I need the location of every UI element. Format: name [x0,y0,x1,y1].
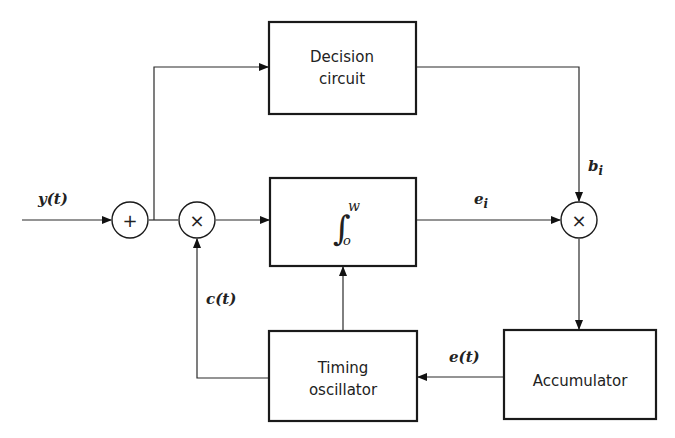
integral-lower-limit: o [343,233,351,248]
multiplier-node-2: × [561,202,597,238]
multiplier-node-1: × [179,202,215,238]
times-icon: × [189,210,204,231]
signal-b-i: bi [588,157,604,178]
adder-node: + [112,202,148,238]
oscillator-label-1: Timing [317,359,369,377]
decision-circuit-block: Decision circuit [269,22,416,114]
oscillator-label-2: oscillator [309,381,378,399]
signal-c-t: c(t) [206,290,236,308]
timing-oscillator-block: Timing oscillator [269,331,417,421]
decision-label-1: Decision [310,48,374,66]
times-icon: × [571,210,586,231]
signal-e-t: e(t) [449,348,480,366]
ct-wire [197,239,269,378]
decision-to-mult-wire [417,67,579,201]
signal-e-i: ei [474,190,489,211]
integral-upper-limit: w [348,198,360,214]
branch-to-decision-wire [154,67,268,220]
block-diagram: Decision circuit ∫ w o Timing oscillator… [0,0,675,438]
integrator-block: ∫ w o [270,178,416,266]
accumulator-label: Accumulator [533,372,629,390]
plus-icon: + [122,210,137,231]
decision-label-2: circuit [319,70,365,88]
signal-y-t: y(t) [37,190,68,208]
accumulator-block: Accumulator [504,330,656,419]
